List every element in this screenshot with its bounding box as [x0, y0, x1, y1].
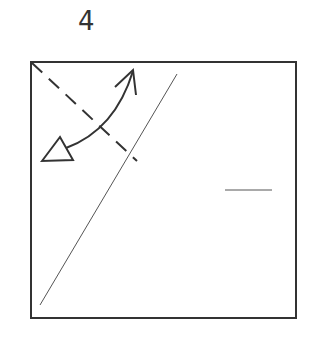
crease-line [40, 74, 177, 305]
fold-arrow-tail-triangle-icon [42, 137, 73, 161]
fold-arrow-curve [66, 71, 133, 148]
valley-fold-line [32, 63, 137, 161]
fold-diagram [0, 0, 309, 341]
